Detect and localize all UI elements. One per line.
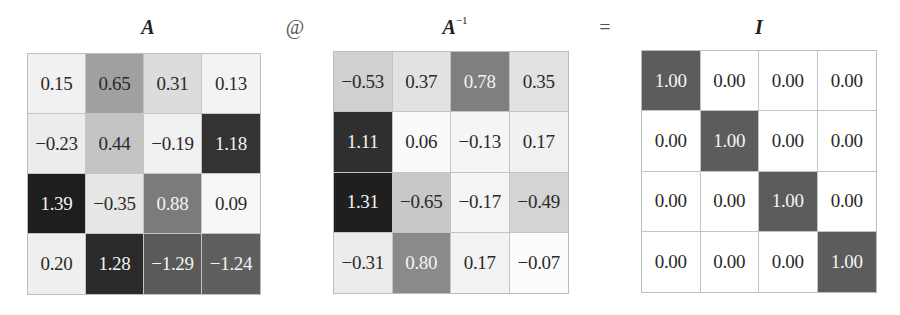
matrix-cell: 0.06 <box>393 112 452 172</box>
matrix-a-inverse-grid: −0.530.370.780.351.110.06−0.130.171.31−0… <box>333 51 569 294</box>
matrix-cell: 1.28 <box>86 234 144 294</box>
matrix-cell: 0.00 <box>642 232 701 292</box>
matrix-cell: −0.49 <box>510 173 569 233</box>
matrix-cell: 0.00 <box>642 111 701 171</box>
matrix-cell: −1.29 <box>144 234 202 294</box>
matrix-cell: 0.65 <box>86 54 144 114</box>
matrix-cell: 0.00 <box>759 51 818 111</box>
matrix-cell: 0.00 <box>701 172 760 232</box>
matrix-cell: 0.00 <box>642 172 701 232</box>
matrix-cell: 0.31 <box>144 54 202 114</box>
matrix-cell: 1.18 <box>202 114 260 174</box>
identity-matrix-title: I <box>729 16 789 39</box>
equals-operator: = <box>590 16 620 39</box>
matrix-cell: −0.23 <box>28 114 86 174</box>
matrix-cell: 0.00 <box>759 111 818 171</box>
matrix-cell: −0.19 <box>144 114 202 174</box>
matrix-a-grid: 0.150.650.310.13−0.230.44−0.191.181.39−0… <box>27 53 261 295</box>
matrix-cell: −0.35 <box>86 174 144 234</box>
matrix-cell: −0.17 <box>451 173 510 233</box>
matrix-cell: 0.17 <box>451 233 510 293</box>
inverse-superscript: −1 <box>456 14 468 26</box>
matrix-cell: 0.78 <box>451 52 510 112</box>
matrix-cell: 0.13 <box>202 54 260 114</box>
matrix-cell: 1.31 <box>334 173 393 233</box>
matrix-cell: 0.80 <box>393 233 452 293</box>
matrix-cell: −0.53 <box>334 52 393 112</box>
matrix-cell: 0.00 <box>818 172 877 232</box>
matrix-a-inverse-title: A−1 <box>420 16 490 39</box>
matrix-cell: −0.65 <box>393 173 452 233</box>
matrix-cell: 0.35 <box>510 52 569 112</box>
matrix-cell: −1.24 <box>202 234 260 294</box>
matrix-cell: 1.11 <box>334 112 393 172</box>
matrix-cell: 0.20 <box>28 234 86 294</box>
matrix-cell: −0.13 <box>451 112 510 172</box>
matrix-cell: 0.44 <box>86 114 144 174</box>
matmul-operator: @ <box>280 16 310 39</box>
matrix-cell: 0.15 <box>28 54 86 114</box>
matrix-cell: 0.00 <box>701 51 760 111</box>
matrix-cell: 0.00 <box>818 111 877 171</box>
matrix-cell: −0.07 <box>510 233 569 293</box>
matrix-cell: 0.00 <box>818 51 877 111</box>
matrix-cell: 0.17 <box>510 112 569 172</box>
matrix-cell: −0.31 <box>334 233 393 293</box>
matrix-a-title: A <box>118 16 178 39</box>
matrix-cell: 1.39 <box>28 174 86 234</box>
matrix-cell: 1.00 <box>701 111 760 171</box>
matrix-cell: 0.00 <box>759 232 818 292</box>
matrix-cell: 1.00 <box>818 232 877 292</box>
matrix-cell: 0.37 <box>393 52 452 112</box>
matrix-cell: 0.09 <box>202 174 260 234</box>
matrix-cell: 0.88 <box>144 174 202 234</box>
matrix-cell: 0.00 <box>701 232 760 292</box>
identity-matrix-grid: 1.000.000.000.000.001.000.000.000.000.00… <box>641 50 877 293</box>
matrix-cell: 1.00 <box>759 172 818 232</box>
matrix-cell: 1.00 <box>642 51 701 111</box>
